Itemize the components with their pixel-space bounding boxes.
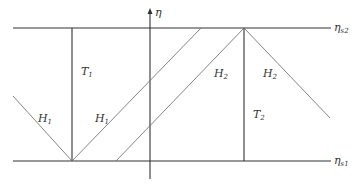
region-label-h1-mid: H1 xyxy=(94,112,109,126)
eta-axis-arrow-icon xyxy=(148,8,153,14)
parallel-diagonal-line xyxy=(116,28,244,161)
eta-s2-label: ηs2 xyxy=(334,21,349,35)
h1-right-line xyxy=(72,28,201,161)
wave-diagram: η ηs2 ηs1 H1 T1 H1 H2 T2 H2 xyxy=(0,0,357,189)
eta-s1-label: ηs1 xyxy=(334,154,349,168)
h2-right-line xyxy=(244,28,330,118)
region-label-t2: T2 xyxy=(253,108,265,122)
region-label-h2-right: H2 xyxy=(262,67,278,81)
region-label-t1: T1 xyxy=(81,65,93,79)
eta-axis-label: η xyxy=(155,6,162,19)
region-label-h2-mid: H2 xyxy=(213,67,229,81)
region-label-h1-left: H1 xyxy=(37,112,52,126)
h1-left-line xyxy=(13,96,72,161)
